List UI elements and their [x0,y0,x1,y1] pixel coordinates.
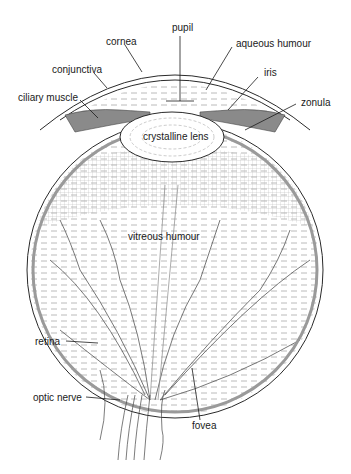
label-vitreous-humour: vitreous humour [128,231,200,243]
label-pupil: pupil [172,22,193,34]
label-iris: iris [264,67,277,79]
label-cornea: cornea [106,36,137,48]
label-fovea: fovea [192,420,216,432]
eye-diagram: pupil cornea aqueous humour conjunctiva … [0,0,351,474]
label-aqueous-humour: aqueous humour [236,38,311,50]
label-retina: retina [35,336,60,348]
label-ciliary-muscle: ciliary muscle [18,92,78,104]
label-crystalline-lens: crystalline lens [143,131,209,143]
label-optic-nerve: optic nerve [33,392,82,404]
label-zonula: zonula [301,97,330,109]
label-conjunctiva: conjunctiva [52,64,102,76]
